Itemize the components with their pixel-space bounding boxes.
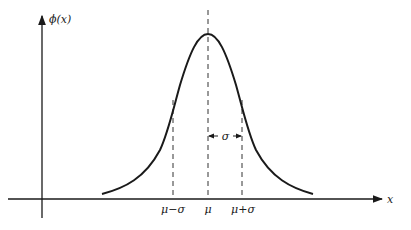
sigma-label: σ bbox=[222, 130, 230, 143]
normal-distribution-diagram: σ ϕ(x) x μ−σ μ μ+σ bbox=[0, 0, 411, 230]
x-axis-label: x bbox=[387, 193, 394, 206]
y-axis-label: ϕ(x) bbox=[49, 13, 71, 26]
tick-mu-plus-sigma: μ+σ bbox=[231, 203, 255, 216]
tick-mu: μ bbox=[204, 203, 211, 216]
tick-mu-minus-sigma: μ−σ bbox=[161, 203, 185, 216]
